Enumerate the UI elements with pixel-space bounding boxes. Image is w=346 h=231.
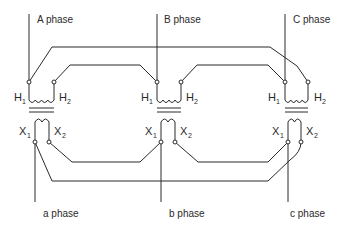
h2-terminal-icon: [179, 80, 183, 84]
h1-label: H 1: [268, 91, 280, 105]
svg-text:2: 2: [188, 132, 192, 139]
h1-terminal-icon: [155, 80, 159, 84]
primary-winding-2: [157, 82, 181, 103]
x1-label: X 1: [145, 125, 157, 139]
transformer-3: [285, 82, 308, 142]
x2-label: X 2: [180, 125, 192, 139]
primary-b-h2-to-c h1-line: [181, 65, 285, 82]
svg-text:2: 2: [67, 98, 71, 105]
c-phase-label: C phase: [293, 14, 331, 25]
svg-text:H: H: [59, 91, 67, 103]
svg-text:X: X: [19, 125, 27, 137]
c-phase-output-label: c phase: [290, 208, 325, 219]
h1-terminal-icon: [27, 80, 31, 84]
primary-winding-1: [29, 82, 54, 103]
x2-label: X 2: [306, 125, 318, 139]
x2-terminal-icon: [173, 140, 177, 144]
x1-terminal-icon: [286, 140, 290, 144]
svg-text:1: 1: [280, 132, 284, 139]
x1-terminal-icon: [159, 140, 163, 144]
h2-label: H 2: [59, 91, 71, 105]
secondary-winding-2: [161, 119, 175, 142]
secondary-winding-1: [35, 119, 49, 142]
primary-a-h2-to-b-h1-line: [54, 65, 157, 82]
x2-terminal-icon: [299, 140, 303, 144]
b-phase-label: B phase: [164, 14, 201, 25]
h1-label: H 1: [141, 91, 153, 105]
a-phase-output-label: a phase: [43, 208, 79, 219]
svg-text:1: 1: [22, 98, 26, 105]
svg-text:1: 1: [276, 98, 280, 105]
svg-text:H: H: [314, 91, 322, 103]
h2-terminal-icon: [52, 80, 56, 84]
h2-label: H 2: [314, 91, 326, 105]
svg-text:1: 1: [153, 132, 157, 139]
x1-label: X 1: [272, 125, 284, 139]
x2-terminal-icon: [47, 140, 51, 144]
svg-text:2: 2: [322, 98, 326, 105]
svg-text:X: X: [180, 125, 188, 137]
svg-text:X: X: [145, 125, 153, 137]
x1-label: X 1: [19, 125, 31, 139]
svg-text:H: H: [268, 91, 276, 103]
svg-text:H: H: [186, 91, 194, 103]
svg-text:2: 2: [314, 132, 318, 139]
x1-terminal-icon: [33, 140, 37, 144]
h1-terminal-icon: [283, 80, 287, 84]
svg-text:2: 2: [62, 132, 66, 139]
h2-terminal-icon: [306, 80, 310, 84]
h2-label: H 2: [186, 91, 198, 105]
svg-text:X: X: [272, 125, 280, 137]
secondary-wiring: [35, 142, 301, 202]
b-phase-output-label: b phase: [169, 208, 205, 219]
transformer-1: [29, 82, 54, 142]
secondary-b-x2-to-c-x1-line: [175, 142, 288, 162]
secondary-a-x2-to-b-x1-line: [49, 142, 161, 162]
a-phase-label: A phase: [37, 14, 74, 25]
x2-label: X 2: [54, 125, 66, 139]
h1-label: H 1: [14, 91, 26, 105]
secondary-winding-3: [288, 119, 301, 142]
svg-text:2: 2: [194, 98, 198, 105]
svg-text:H: H: [14, 91, 22, 103]
primary-winding-3: [285, 82, 308, 103]
svg-text:X: X: [54, 125, 62, 137]
transformer-wiring-diagram: A phase B phase C phase a phase b phase …: [0, 0, 346, 231]
transformer-2: [157, 82, 181, 142]
svg-text:1: 1: [149, 98, 153, 105]
svg-text:H: H: [141, 91, 149, 103]
svg-text:1: 1: [27, 132, 31, 139]
svg-text:X: X: [306, 125, 314, 137]
